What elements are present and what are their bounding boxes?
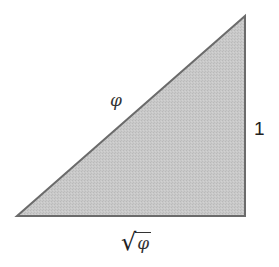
- triangle-shape: [17, 16, 245, 216]
- vertical-side-label: 1: [254, 119, 265, 138]
- square-root-sign: √: [121, 230, 136, 254]
- hypotenuse-label: φ: [110, 92, 122, 109]
- square-root-radicand: φ: [135, 232, 151, 254]
- horizontal-side-label: √ φ: [121, 222, 151, 254]
